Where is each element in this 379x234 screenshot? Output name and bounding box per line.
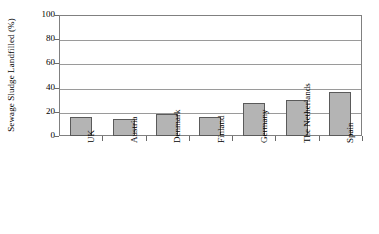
x-tick-mark [319, 136, 320, 141]
x-tick-mark [189, 136, 190, 141]
y-tick-label: 40 [15, 83, 55, 92]
x-tick-mark [275, 136, 276, 141]
bar-slot [59, 15, 102, 136]
bar-slot [146, 15, 189, 136]
x-tick-mark [362, 136, 363, 141]
chart-figure: Sewage Sludge Landfilled (%) 02040608010… [0, 0, 379, 234]
x-tick-label-text: The Netherlands [302, 83, 312, 143]
x-tick-mark [102, 136, 103, 141]
y-tick-label: 0 [15, 131, 55, 140]
x-tick-mark [146, 136, 147, 141]
x-tick-label-text: UK [86, 130, 96, 143]
y-axis-title: Sewage Sludge Landfilled (%) [4, 5, 18, 145]
x-tick-mark [232, 136, 233, 141]
bar-slot [319, 15, 362, 136]
y-tick-label: 20 [15, 107, 55, 116]
y-tick-label: 60 [15, 58, 55, 67]
x-tick-label-text: Germany [259, 110, 269, 144]
bar-slot [275, 15, 318, 136]
x-tick-label-text: Denmark [172, 110, 182, 144]
bar-slot [102, 15, 145, 136]
bars-layer [59, 15, 362, 136]
y-tick-mark [54, 136, 59, 137]
x-tick-label-text: Spain [345, 122, 355, 143]
y-tick-label: 80 [15, 34, 55, 43]
x-tick-label-text: Austria [129, 117, 139, 144]
x-tick-label-text: Finland [216, 115, 226, 143]
y-tick-label: 100 [15, 10, 55, 19]
